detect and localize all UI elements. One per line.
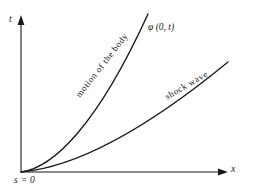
figure-canvas	[0, 0, 253, 196]
t-axis-arrowhead	[18, 15, 25, 25]
origin-label: s = 0	[14, 176, 35, 186]
x-axis-arrowhead	[218, 169, 228, 176]
t-axis-label: t	[9, 14, 12, 24]
x-axis-label: x	[231, 164, 235, 174]
phi-boundary-condition-label: φ (0, t)	[148, 23, 174, 33]
xt-diagram-figure: t x s = 0 motion of the body shock wave …	[0, 0, 253, 196]
